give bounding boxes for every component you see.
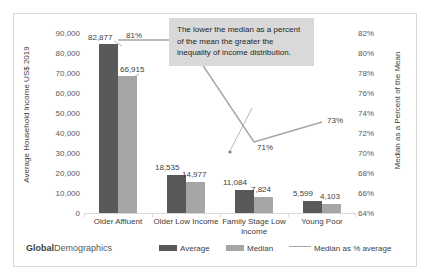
- leader-line-median-1: [130, 74, 139, 79]
- chart-container: Average Household Income US$ 2019 Median…: [13, 13, 417, 267]
- y-tick-right-5: 74%: [358, 110, 374, 118]
- line-label-family-stage-low-income: 71%: [257, 143, 273, 152]
- annotation-textbox[interactable]: The lower the median as a percent of the…: [169, 18, 314, 66]
- y-tick-left-4: 40,000: [56, 130, 80, 138]
- callout-anchor-point: [228, 150, 231, 153]
- y-tick-right-9: 82%: [358, 30, 374, 38]
- leader-line-average-1: [114, 41, 122, 46]
- y-tick-right-3: 70%: [358, 150, 374, 158]
- line-label-older-affluent: 81%: [126, 31, 142, 40]
- y-tick-left-5: 50,000: [56, 110, 80, 118]
- line-label-young-poor: 73%: [327, 116, 343, 125]
- y-tick-left-8: 80,000: [56, 50, 80, 58]
- legend-label-average: Average: [180, 244, 210, 253]
- x-label-family-stage-low-income: Family Stage Low Income: [220, 217, 288, 237]
- legend-item-median-pct[interactable]: Median as % average: [289, 244, 391, 253]
- y-tick-right-1: 66%: [358, 190, 374, 198]
- y-tick-left-3: 30,000: [56, 150, 80, 158]
- y-tick-left-6: 60,000: [56, 90, 80, 98]
- brand-logo: GlobalDemographics: [26, 243, 112, 253]
- y-tick-right-8: 80%: [358, 50, 374, 58]
- y-tick-left-1: 10,000: [56, 190, 80, 198]
- brand-regular-text: Demographics: [54, 243, 112, 253]
- y-tick-left-9: 90,000: [56, 30, 80, 38]
- x-label-older-affluent: Older Affluent: [84, 217, 152, 227]
- legend-item-median[interactable]: Median: [226, 244, 273, 253]
- y-axis-right-ticks: 64% 66% 68% 70% 72% 74% 76% 78% 80% 82%: [358, 14, 398, 266]
- legend-label-median-pct: Median as % average: [314, 244, 391, 253]
- y-tick-left-7: 70,000: [56, 70, 80, 78]
- y-tick-right-0: 64%: [358, 210, 374, 218]
- legend: GlobalDemographics Average Median Median…: [14, 240, 416, 260]
- legend-swatch-average: [159, 245, 177, 251]
- y-tick-left-2: 20,000: [56, 170, 80, 178]
- legend-swatch-median-pct: [289, 246, 311, 247]
- y-tick-right-4: 72%: [358, 130, 374, 138]
- callout-leader-line: [230, 108, 252, 151]
- legend-label-median: Median: [247, 244, 273, 253]
- y-tick-right-7: 78%: [358, 70, 374, 78]
- x-label-young-poor: Young Poor: [288, 217, 356, 227]
- legend-swatch-median: [226, 245, 244, 251]
- y-axis-left-title: Average Household Income US$ 2019: [22, 40, 31, 190]
- legend-item-average[interactable]: Average: [159, 244, 210, 253]
- y-tick-left-0: 0: [76, 210, 80, 218]
- y-tick-right-6: 76%: [358, 90, 374, 98]
- y-tick-right-2: 68%: [358, 170, 374, 178]
- brand-bold-text: Global: [26, 243, 54, 253]
- y-axis-left-ticks: 0 10,000 20,000 30,000 40,000 50,000 60,…: [40, 14, 80, 266]
- x-label-older-low-income: Older Low Income: [152, 217, 220, 227]
